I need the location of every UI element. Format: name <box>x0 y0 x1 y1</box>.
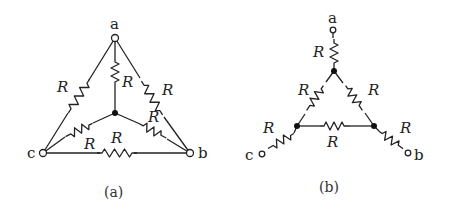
resistor-cb <box>43 149 190 157</box>
caption-a: (a) <box>104 184 123 200</box>
figure-b: a c b R R R R R R (b) <box>245 9 424 195</box>
resistor-left-right <box>297 122 374 130</box>
terminal-b <box>187 150 194 157</box>
r-label: R <box>56 78 68 96</box>
r-label: R <box>121 73 133 91</box>
label-a: a <box>110 15 119 33</box>
label-b: b <box>198 144 208 162</box>
r-label: R <box>83 135 95 153</box>
resistor-a-center <box>111 38 119 113</box>
terminal-c <box>40 150 47 157</box>
r-label: R <box>161 81 173 99</box>
terminal-a <box>112 35 119 42</box>
label-b: b <box>414 146 424 164</box>
r-label: R <box>312 43 324 61</box>
label-c: c <box>245 146 253 164</box>
terminal-b <box>405 150 411 156</box>
label-c: c <box>27 144 35 162</box>
r-label: R <box>297 81 309 99</box>
node-top <box>331 68 337 74</box>
r-label: R <box>326 133 338 151</box>
figure-a: a c b R R R R R R (a) <box>27 15 208 200</box>
resistor-ab <box>115 38 190 153</box>
resistor-ac <box>43 38 115 153</box>
caption-b: (b) <box>319 179 339 195</box>
node-left <box>294 123 300 129</box>
circuit-diagrams: a c b R R R R R R (a) <box>0 0 449 215</box>
terminal-c <box>259 151 265 157</box>
resistor-center-c <box>43 113 115 153</box>
r-label: R <box>110 129 122 147</box>
label-a: a <box>328 9 337 27</box>
r-label: R <box>367 81 379 99</box>
node-right <box>371 123 377 129</box>
r-label: R <box>147 108 159 126</box>
r-label: R <box>262 119 274 137</box>
r-label: R <box>399 119 411 137</box>
resistor-a-top <box>330 33 338 71</box>
center-node <box>112 110 118 116</box>
terminal-a <box>330 27 336 33</box>
